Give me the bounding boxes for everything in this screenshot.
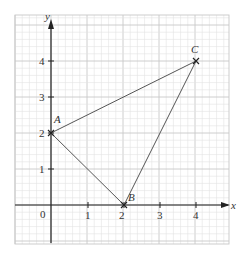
origin-label: 0 (40, 208, 46, 220)
point-a-label: A (53, 113, 61, 125)
x-tick-label-4: 4 (193, 209, 199, 221)
y-tick-label-1: 1 (39, 163, 45, 175)
coordinate-diagram: x y 0 1 2 3 4 1 2 3 4 A B C (0, 0, 244, 254)
y-axis-label: y (44, 10, 50, 22)
y-tick-label-3: 3 (39, 91, 45, 103)
x-axis-label: x (230, 199, 236, 211)
x-tick-label-1: 1 (85, 209, 91, 221)
point-b-label: B (128, 191, 135, 203)
x-tick-label-3: 3 (157, 209, 163, 221)
y-tick-label-2: 2 (39, 127, 45, 139)
x-tick-label-2: 2 (119, 209, 125, 221)
y-tick-label-4: 4 (39, 55, 45, 67)
point-c-label: C (191, 43, 199, 55)
ticks (48, 61, 196, 208)
